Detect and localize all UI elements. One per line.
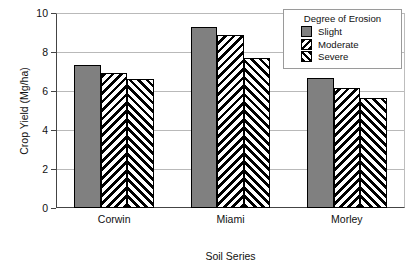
bar-corwin-slight	[74, 65, 101, 208]
x-axis-title: Soil Series	[56, 250, 405, 262]
bar-corwin-severe	[127, 79, 154, 208]
x-axis-label-corwin: Corwin	[56, 213, 172, 225]
legend-title: Degree of Erosion	[288, 13, 397, 24]
x-axis-label-morley: Morley	[289, 213, 405, 225]
legend: Degree of Erosion Slight Moderate Severe	[283, 9, 402, 69]
legend-item-moderate: Moderate	[301, 39, 397, 50]
x-axis-category-labels: CorwinMiamiMorley	[56, 213, 405, 231]
y-tick-label: 8	[16, 46, 48, 58]
y-tick-label: 0	[16, 202, 48, 214]
y-tick-label: 6	[16, 85, 48, 97]
legend-label-moderate: Moderate	[318, 39, 359, 50]
legend-item-severe: Severe	[301, 51, 397, 62]
x-axis-label-miami: Miami	[172, 213, 288, 225]
bar-miami-slight	[191, 27, 218, 208]
bar-corwin-moderate	[101, 73, 128, 208]
bar-morley-severe	[360, 98, 387, 208]
legend-label-severe: Severe	[318, 51, 348, 62]
legend-swatch-slight-icon	[301, 26, 312, 37]
y-tick-label: 10	[16, 7, 48, 19]
y-tick-label: 2	[16, 163, 48, 175]
y-tick-label: 4	[16, 124, 48, 136]
legend-item-slight: Slight	[301, 26, 397, 37]
bar-group-miami	[191, 13, 271, 208]
legend-swatch-severe-icon	[301, 51, 312, 62]
legend-label-slight: Slight	[318, 26, 342, 37]
y-tick-mark	[51, 208, 56, 209]
bar-chart: Crop Yield (Mg/ha) 0246810 CorwinMiamiMo…	[0, 0, 411, 279]
legend-swatch-moderate-icon	[301, 39, 312, 50]
bar-miami-moderate	[217, 35, 244, 208]
bar-morley-moderate	[334, 88, 361, 208]
bar-group-corwin	[74, 13, 154, 208]
bar-miami-severe	[244, 58, 271, 208]
bar-morley-slight	[307, 78, 334, 208]
